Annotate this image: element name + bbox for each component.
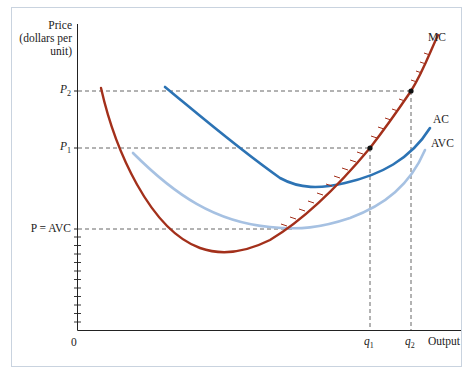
mc-label: MC <box>428 31 446 44</box>
x-axis-label: Output <box>428 335 460 348</box>
origin-label: 0 <box>71 336 77 349</box>
p-avc-label: P = AVC <box>31 222 71 235</box>
point-q1-p1 <box>367 145 372 150</box>
p2-label-sub: 2 <box>67 89 71 98</box>
y-axis-label: Price (dollars per unit) <box>19 19 72 59</box>
p1-label: P1 <box>60 140 71 155</box>
y-axis-label-line2: (dollars per <box>19 32 72 45</box>
q1-label-sub: 1 <box>370 341 374 350</box>
point-q2-p2 <box>408 88 413 93</box>
guide-lines <box>78 91 411 330</box>
q2-label-sub: 2 <box>411 341 415 350</box>
avc-curve <box>133 150 425 228</box>
ac-curve <box>165 87 430 187</box>
q1-label: q1 <box>364 335 374 350</box>
y-axis-label-line3: unit) <box>19 45 72 58</box>
mc-hatch-marks <box>281 53 430 226</box>
p2-label-main: P <box>60 83 67 95</box>
p1-label-main: P <box>60 140 67 152</box>
p1-label-sub: 1 <box>67 146 71 155</box>
mc-curve <box>101 35 438 252</box>
p2-label: P2 <box>60 83 71 98</box>
q2-label: q2 <box>405 335 415 350</box>
y-axis-label-line1: Price <box>19 19 72 32</box>
ac-label: AC <box>433 113 449 126</box>
avc-label: AVC <box>431 137 454 150</box>
